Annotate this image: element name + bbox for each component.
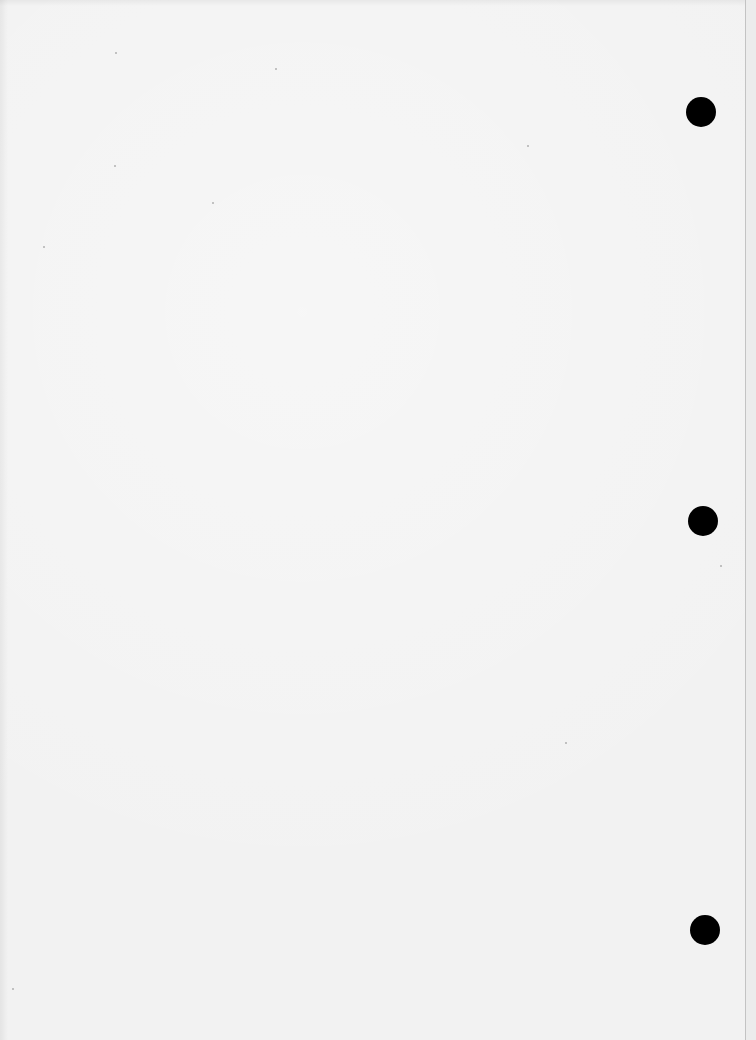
paper-speck — [114, 165, 116, 167]
paper-speck — [212, 202, 214, 204]
paper-speck — [43, 246, 45, 248]
page-edge-line — [745, 0, 746, 1040]
paper-speck — [275, 68, 277, 70]
right-edge-strip — [745, 0, 756, 1040]
paper-speck — [565, 742, 567, 744]
paper-speck — [12, 988, 14, 990]
paper-speck — [115, 52, 117, 54]
punch-hole-middle — [688, 506, 718, 536]
paper-speck — [720, 565, 722, 567]
punch-hole-bottom — [690, 915, 720, 945]
top-shadow — [0, 0, 756, 6]
paper-speck — [527, 145, 529, 147]
punch-hole-top — [686, 97, 716, 127]
scanned-page — [0, 0, 756, 1040]
